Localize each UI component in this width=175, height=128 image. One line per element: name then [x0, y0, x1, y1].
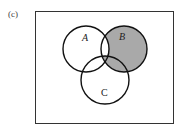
venn-diagram: A B C [0, 0, 175, 128]
label-c: C [101, 87, 108, 98]
label-b: B [119, 31, 125, 42]
universal-set-frame [36, 12, 174, 124]
label-a: A [81, 32, 89, 43]
